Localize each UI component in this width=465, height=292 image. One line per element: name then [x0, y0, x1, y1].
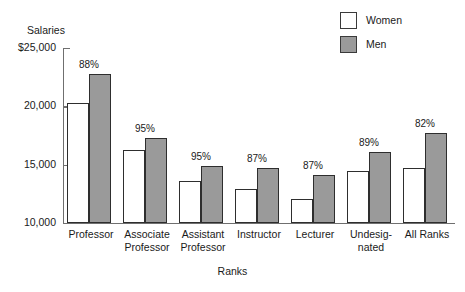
x-axis-title: Ranks: [0, 265, 465, 277]
bar-women: [67, 103, 89, 223]
y-axis-tick-label: 15,000: [24, 158, 56, 170]
bar-group: 95%: [175, 48, 231, 223]
bar-women: [179, 181, 201, 223]
category-label-line: Professor: [170, 241, 236, 254]
bar-men: [145, 138, 167, 223]
category-label-line: nated: [338, 241, 404, 254]
bar-chart-figure: Women Men Salaries $25,00020,00015,00010…: [0, 0, 465, 292]
bar-percent-label: 95%: [122, 123, 168, 134]
y-axis-tick-label: 10,000: [24, 216, 56, 228]
legend-swatch-women-icon: [340, 12, 357, 29]
y-axis-tick: 10,000: [63, 223, 70, 224]
bar-women: [235, 189, 257, 223]
y-axis-tick-label: $25,000: [18, 41, 56, 53]
bar-group: 89%: [343, 48, 399, 223]
bar-men: [369, 152, 391, 223]
category-label-line: All Ranks: [394, 228, 460, 241]
y-axis-tick-label: 20,000: [24, 99, 56, 111]
bar-women: [123, 150, 145, 224]
bar-men: [201, 166, 223, 223]
x-axis-category-label: All Ranks: [394, 228, 460, 241]
legend-label-women: Women: [366, 15, 402, 26]
bar-men: [89, 74, 111, 223]
bar-group: 88%: [63, 48, 119, 223]
bar-percent-label: 95%: [178, 151, 224, 162]
bar-percent-label: 87%: [234, 153, 280, 164]
bar-women: [347, 171, 369, 224]
plot-area: $25,00020,00015,00010,000 88%95%95%87%87…: [63, 48, 455, 223]
bar-percent-label: 82%: [402, 118, 448, 129]
bar-percent-label: 89%: [346, 137, 392, 148]
bar-group: 87%: [287, 48, 343, 223]
bar-percent-label: 87%: [290, 160, 336, 171]
bar-men: [425, 133, 447, 223]
bar-men: [313, 175, 335, 223]
bar-group: 82%: [399, 48, 455, 223]
x-axis-category-labels: ProfessorAssociateProfessorAssistantProf…: [63, 228, 455, 262]
bar-women: [403, 168, 425, 223]
bar-men: [257, 168, 279, 223]
x-axis-line: [63, 223, 455, 224]
legend-item-women: Women: [340, 10, 460, 31]
bar-group: 87%: [231, 48, 287, 223]
bar-percent-label: 88%: [66, 59, 112, 70]
bar-groups: 88%95%95%87%87%89%82%: [63, 48, 455, 223]
y-axis-title: Salaries: [27, 24, 65, 36]
bar-group: 95%: [119, 48, 175, 223]
bar-women: [291, 199, 313, 223]
